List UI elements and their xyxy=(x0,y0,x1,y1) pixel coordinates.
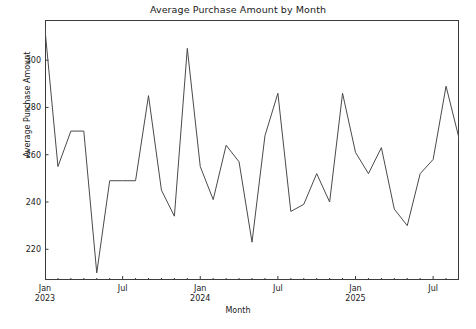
y-tick-label: 280 xyxy=(1,103,41,112)
plot-area xyxy=(45,20,459,280)
x-axis-label: Month xyxy=(0,306,476,315)
y-tick-label: 300 xyxy=(1,56,41,65)
line-chart-svg xyxy=(45,20,459,280)
x-tick-label: Jul xyxy=(248,284,308,294)
y-tick-label: 260 xyxy=(1,150,41,159)
chart-figure: Average Purchase Amount by Month Average… xyxy=(0,0,476,329)
y-tick-label: 220 xyxy=(1,245,41,254)
x-tick-label: Jan 2023 xyxy=(15,284,75,304)
x-tick-label: Jan 2024 xyxy=(170,284,230,304)
x-tick-label: Jul xyxy=(403,284,463,294)
x-tick-label: Jan 2025 xyxy=(326,284,386,304)
y-tick-label: 240 xyxy=(1,198,41,207)
chart-title: Average Purchase Amount by Month xyxy=(0,4,476,15)
x-tick-label: Jul xyxy=(93,284,153,294)
